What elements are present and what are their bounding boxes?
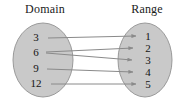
mapping-canvas xyxy=(0,0,186,105)
range-element-1: 1 xyxy=(145,30,151,42)
domain-element-6: 6 xyxy=(33,46,39,58)
domain-element-3: 3 xyxy=(33,31,39,43)
range-element-3: 3 xyxy=(145,54,151,66)
range-element-5: 5 xyxy=(145,78,151,90)
mapping-diagram: Domain Range 36912 12345 xyxy=(0,0,186,105)
range-element-2: 2 xyxy=(145,42,151,54)
domain-ellipse xyxy=(13,23,73,97)
domain-element-12: 12 xyxy=(31,77,42,89)
domain-element-9: 9 xyxy=(33,62,39,74)
range-element-4: 4 xyxy=(145,66,151,78)
